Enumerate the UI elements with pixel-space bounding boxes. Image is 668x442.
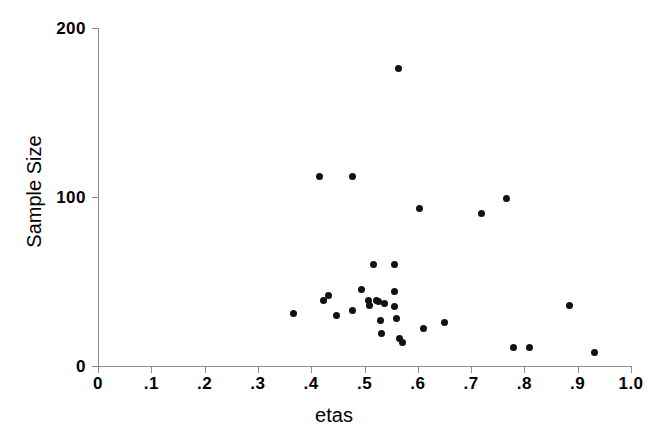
y-axis-tick — [92, 28, 98, 29]
data-point — [391, 288, 398, 295]
y-axis-tick-label: 200 — [28, 20, 86, 37]
x-axis-tick — [258, 367, 259, 373]
x-axis-title: etas — [0, 404, 668, 427]
data-point — [381, 300, 388, 307]
x-axis-tick-label: .9 — [548, 375, 608, 392]
x-axis-tick-label: .8 — [494, 375, 554, 392]
data-point — [377, 317, 384, 324]
x-axis-tick — [578, 367, 579, 373]
x-axis-tick — [418, 367, 419, 373]
data-point — [526, 344, 533, 351]
scatter-plot: Sample Size 0100200 etas 0.1.2.3.4.5.6.7… — [0, 0, 668, 442]
x-axis-tick-label: .3 — [228, 375, 288, 392]
data-point — [366, 302, 373, 309]
data-point — [395, 65, 402, 72]
x-axis-tick — [631, 367, 632, 373]
data-point — [290, 310, 297, 317]
data-point — [399, 339, 406, 346]
data-point — [349, 173, 356, 180]
y-axis-tick — [92, 197, 98, 198]
x-axis-tick-label: 0 — [68, 375, 128, 392]
x-axis-tick — [205, 367, 206, 373]
x-axis-tick-label: .4 — [281, 375, 341, 392]
x-axis-tick — [471, 367, 472, 373]
x-axis-tick-label: .6 — [388, 375, 448, 392]
data-point — [416, 205, 423, 212]
data-point — [316, 173, 323, 180]
data-point — [420, 325, 427, 332]
plot-area — [98, 28, 631, 366]
x-axis-tick — [311, 367, 312, 373]
data-point — [510, 344, 517, 351]
data-point — [393, 315, 400, 322]
x-axis-tick — [524, 367, 525, 373]
x-axis-tick-label: .2 — [175, 375, 235, 392]
data-point — [441, 319, 448, 326]
x-axis-tick-label: .5 — [335, 375, 395, 392]
data-point — [349, 307, 356, 314]
data-point — [333, 312, 340, 319]
data-point — [370, 261, 377, 268]
data-point — [325, 292, 332, 299]
data-point — [391, 303, 398, 310]
data-point — [566, 302, 573, 309]
y-axis-tick — [92, 366, 98, 367]
y-axis-tick-label: 100 — [28, 189, 86, 206]
data-point — [378, 330, 385, 337]
x-axis-tick-label: .7 — [441, 375, 501, 392]
data-point — [478, 210, 485, 217]
x-axis-tick — [151, 367, 152, 373]
x-axis-tick-label: .1 — [121, 375, 181, 392]
data-point — [358, 286, 365, 293]
data-point — [503, 195, 510, 202]
data-point — [391, 261, 398, 268]
x-axis-tick-label: 1.0 — [601, 375, 661, 392]
data-point — [591, 349, 598, 356]
x-axis-tick — [365, 367, 366, 373]
y-axis-tick-label: 0 — [28, 358, 86, 375]
x-axis-tick — [98, 367, 99, 373]
